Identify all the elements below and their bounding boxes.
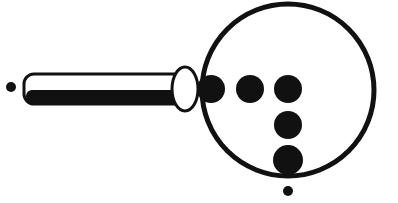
- dot-4: [274, 111, 302, 139]
- magnifier-diagram: [0, 0, 398, 203]
- dot-2: [236, 75, 264, 103]
- left-marker-dot: [6, 82, 16, 92]
- handle: [24, 74, 190, 104]
- handle-joint: [172, 67, 198, 111]
- dot-3: [274, 75, 302, 103]
- lens-dots: [197, 75, 303, 175]
- dot-5: [273, 145, 303, 175]
- handle-shadow: [26, 90, 188, 103]
- bottom-marker-dot: [283, 186, 293, 196]
- dot-1: [197, 75, 225, 103]
